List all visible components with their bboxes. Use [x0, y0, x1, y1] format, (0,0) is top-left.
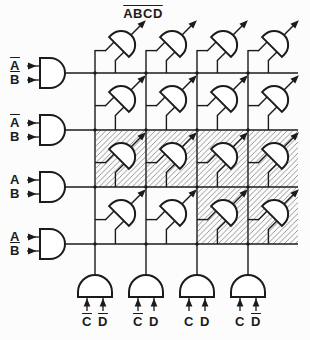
output-lead — [233, 26, 242, 35]
col4-input-label-left: C — [233, 314, 247, 329]
input-pin — [156, 211, 165, 220]
output-lead — [182, 195, 191, 204]
bottom-and-gate-1 — [78, 275, 112, 311]
junction-dot — [93, 71, 96, 74]
array-and-gate-r1-c4 — [248, 10, 309, 73]
input-arrowhead — [28, 248, 37, 255]
junction-dot — [93, 128, 96, 131]
input-pin — [105, 97, 114, 106]
and-gate-body — [40, 58, 65, 88]
junction-dot — [246, 242, 249, 245]
input-pin — [268, 52, 277, 61]
input-arrowhead — [28, 234, 37, 241]
and-gate-body — [231, 275, 265, 297]
input-arrowhead — [151, 299, 158, 307]
col2-input-label-right: D — [147, 314, 161, 329]
junction-dot — [195, 71, 198, 74]
logic-diagram: ABCD A B A B A B A B C D C D C D C D — [0, 0, 310, 340]
and-gate-body — [40, 229, 65, 259]
input-arrowhead — [202, 299, 209, 307]
left-and-gate-2 — [27, 115, 65, 145]
junction-dot — [144, 128, 147, 131]
row3-input-label-top: A — [8, 172, 22, 187]
input-arrowhead — [186, 299, 193, 307]
junction-dot — [144, 71, 147, 74]
junction-dot — [93, 185, 96, 188]
junction-dot — [144, 185, 147, 188]
col3-input-label-right: D — [198, 314, 212, 329]
col1-input-label-left: C — [80, 314, 94, 329]
input-pin — [166, 107, 175, 116]
input-arrowhead — [28, 134, 37, 141]
bottom-and-gate-3 — [180, 275, 214, 311]
and-gate-body — [129, 275, 163, 297]
and-gate-body — [180, 275, 214, 297]
input-pin — [217, 52, 226, 61]
array-and-gate-r2-c4 — [248, 65, 309, 130]
and-gate-body — [40, 172, 65, 202]
junction-dot — [195, 185, 198, 188]
input-pin — [115, 221, 124, 230]
input-pin — [258, 97, 267, 106]
input-arrowhead — [28, 177, 37, 184]
col1-input-label-right: D — [96, 314, 110, 329]
rotated-gate — [253, 10, 309, 66]
bottom-and-gate-2 — [129, 275, 163, 311]
and-array-circuit — [0, 0, 310, 340]
input-pin — [217, 107, 226, 116]
row1-input-label-top: A — [8, 58, 22, 73]
output-lead — [284, 81, 293, 90]
input-arrowhead — [253, 299, 260, 307]
and-gate-body — [78, 275, 112, 297]
row1-input-label-bottom: B — [8, 72, 22, 87]
input-pin — [156, 42, 165, 51]
row3-input-label-bottom: B — [8, 186, 22, 201]
rotated-gate — [202, 10, 258, 66]
input-pin — [105, 211, 114, 220]
input-arrowhead — [237, 299, 244, 307]
input-pin — [105, 42, 114, 51]
output-lead — [182, 81, 191, 90]
output-lead — [284, 26, 293, 35]
row4-input-label-bottom: B — [8, 243, 22, 258]
left-and-gate-1 — [27, 58, 65, 88]
input-arrowhead — [28, 63, 37, 70]
junction-dot — [246, 128, 249, 131]
input-pin — [207, 42, 216, 51]
input-arrowhead — [28, 120, 37, 127]
left-and-gate-4 — [27, 229, 65, 259]
input-pin — [115, 107, 124, 116]
and-gate-body — [40, 115, 65, 145]
col3-input-label-left: C — [182, 314, 196, 329]
output-minterm-label: ABCD — [121, 6, 165, 21]
row2-input-label-bottom: B — [8, 129, 22, 144]
input-pin — [258, 42, 267, 51]
output-lead — [131, 195, 140, 204]
col2-input-label-left: C — [131, 314, 145, 329]
junction-dot — [144, 242, 147, 245]
input-arrowhead — [84, 299, 91, 307]
left-and-gate-3 — [27, 172, 65, 202]
junction-dot — [246, 71, 249, 74]
input-pin — [166, 52, 175, 61]
col4-input-label-right: D — [249, 314, 263, 329]
input-pin — [207, 97, 216, 106]
junction-dot — [195, 128, 198, 131]
junction-dot — [93, 242, 96, 245]
input-arrowhead — [135, 299, 142, 307]
bottom-and-gate-4 — [231, 275, 265, 311]
junction-dot — [246, 185, 249, 188]
input-pin — [115, 52, 124, 61]
input-pin — [156, 97, 165, 106]
output-lead — [233, 81, 242, 90]
output-lead — [131, 81, 140, 90]
junction-dot — [195, 242, 198, 245]
input-arrowhead — [28, 191, 37, 198]
input-arrowhead — [28, 77, 37, 84]
input-pin — [268, 107, 277, 116]
input-pin — [166, 221, 175, 230]
row2-input-label-top: A — [8, 115, 22, 130]
output-lead — [131, 26, 140, 35]
output-lead — [182, 26, 191, 35]
input-arrowhead — [100, 299, 107, 307]
